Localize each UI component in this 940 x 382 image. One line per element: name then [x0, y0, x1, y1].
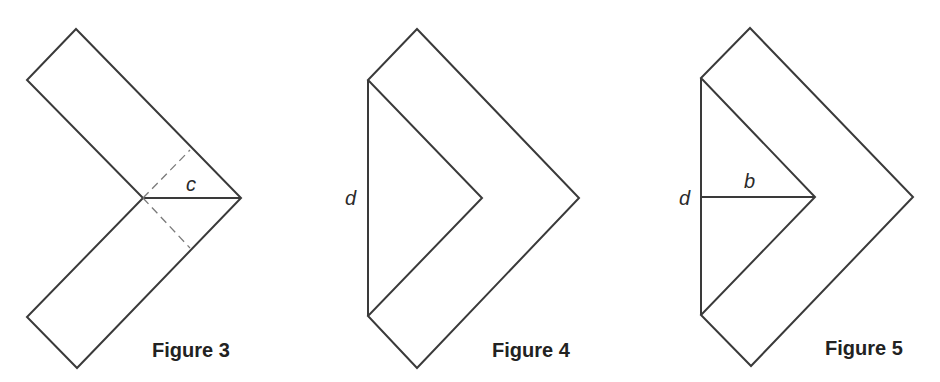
figure-3-fold-line-lower [143, 198, 190, 248]
figure-3: c Figure 3 [27, 29, 241, 368]
figure-4-strip [368, 29, 579, 368]
figures-canvas: c Figure 3 d Figure 4 d b Figure 5 [0, 0, 940, 382]
figure-3-label-c: c [186, 173, 196, 195]
figure-4: d Figure 4 [345, 29, 579, 368]
figure-3-caption: Figure 3 [152, 339, 230, 361]
figure-5-label-d: d [679, 187, 691, 209]
figure-5-label-b: b [744, 170, 755, 192]
figure-5-caption: Figure 5 [825, 337, 903, 359]
figure-5: d b Figure 5 [679, 28, 913, 366]
figure-3-fold-line-upper [143, 150, 190, 198]
figure-4-caption: Figure 4 [492, 339, 571, 361]
figure-4-label-d: d [345, 187, 357, 209]
